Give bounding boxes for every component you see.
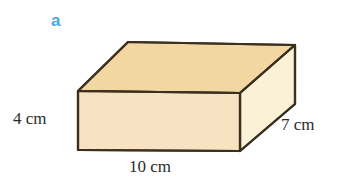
prism-front-face <box>78 91 240 151</box>
figure-container: a 4 cm 10 cm 7 cm <box>0 0 349 188</box>
dimension-label-length: 10 cm <box>129 158 171 175</box>
dimension-label-depth: 7 cm <box>281 116 315 133</box>
part-label-a: a <box>51 12 60 29</box>
dimension-label-height: 4 cm <box>13 110 47 127</box>
prism-edge-bottom-front <box>78 150 240 151</box>
